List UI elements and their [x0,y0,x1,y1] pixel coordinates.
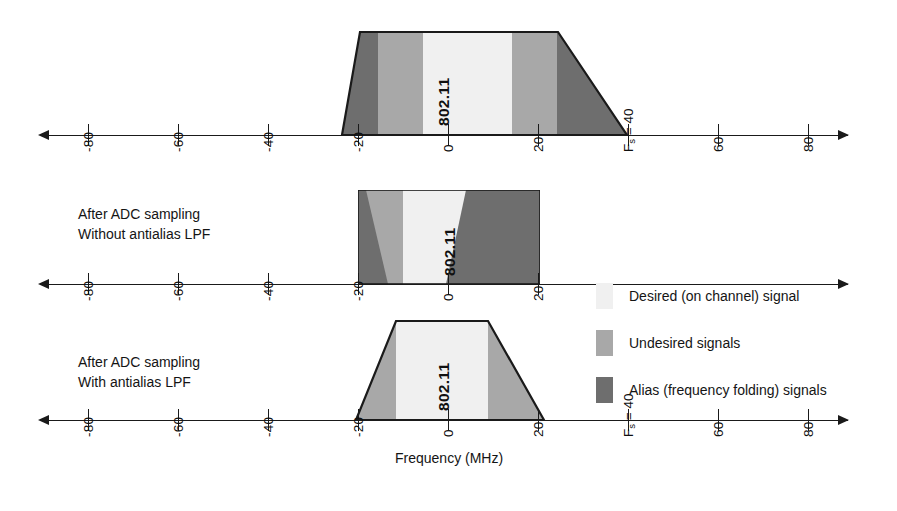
caption-without-lpf-line2: Without antialias LPF [78,224,210,244]
tick-label-mid-0: 0 [442,293,456,301]
tick-label-top--80: -80 [82,132,96,152]
spectrum-without-lpf: 802.11 [358,190,540,284]
spectrum-with-lpf: 802.11 [350,319,550,420]
fs-subscript: s [626,139,637,144]
legend-label-undesired: Undesired signals [629,335,740,351]
tick-label-bot--40: -40 [262,417,276,437]
axis-arrow-left [38,279,49,289]
signal-tag-802-11: 802.11 [436,363,452,411]
fs-subscript: s [626,424,637,429]
axis-arrow-left [38,415,49,425]
axis-arrow-right [838,130,849,140]
band-undesired-right [512,32,557,135]
spectrum-figure: 802.11 -80 -60 -40 -20 0 20 Fs = 40 [0,0,897,511]
legend-swatch-undesired [596,330,613,356]
tick-mid-0 [448,273,449,295]
legend-item-undesired: Undesired signals [596,330,740,356]
legend-swatch-alias [596,377,613,403]
legend-label-desired: Desired (on channel) signal [629,288,799,304]
legend-item-desired: Desired (on channel) signal [596,283,799,309]
tick-label-top--40: -40 [262,132,276,152]
caption-with-lpf-line2: With antialias LPF [78,372,200,392]
x-axis-label: Frequency (MHz) [395,450,503,466]
panel-with-lpf: After ADC sampling With antialias LPF 80… [0,340,897,511]
legend-swatch-desired [596,283,613,309]
tick-label-mid--80: -80 [82,281,96,301]
tick-label-bot-20: 20 [532,422,546,437]
tick-top-0 [448,124,449,146]
signal-tag-802-11: 802.11 [436,78,452,126]
fs-symbol: F [621,429,636,437]
legend-label-alias: Alias (frequency folding) signals [629,382,827,398]
legend-item-alias: Alias (frequency folding) signals [596,377,827,403]
tick-bot-0 [448,409,449,431]
tick-label-bot--60: -60 [172,417,186,437]
tick-label-mid-20: 20 [532,286,546,301]
panel-before-sampling: 802.11 -80 -60 -40 -20 0 20 Fs = 40 [0,0,897,190]
signal-tag-802-11: 802.11 [442,228,458,276]
caption-without-lpf: After ADC sampling Without antialias LPF [78,204,210,245]
tick-label-bot--20: -20 [352,417,366,437]
tick-label-top--60: -60 [172,132,186,152]
band-alias-left [342,32,378,135]
tick-label-bot-0: 0 [442,429,456,437]
tick-label-bot--80: -80 [82,417,96,437]
tick-label-mid--40: -40 [262,281,276,301]
caption-without-lpf-line1: After ADC sampling [78,204,210,224]
tick-label-mid--60: -60 [172,281,186,301]
fs-symbol: F [621,144,636,152]
band-undesired-left [378,32,423,135]
axis-arrow-left [38,130,49,140]
tick-label-bot-60: 60 [712,422,726,437]
tick-label-bot-80: 80 [802,422,816,437]
axis-arrow-right [838,415,849,425]
tick-label-top-0: 0 [442,144,456,152]
fs-label-top: Fs = 40 [622,109,636,152]
caption-with-lpf-line1: After ADC sampling [78,352,200,372]
tick-label-top--20: -20 [352,132,366,152]
tick-label-top-60: 60 [712,137,726,152]
caption-with-lpf: After ADC sampling With antialias LPF [78,352,200,393]
tick-label-top-80: 80 [802,137,816,152]
tick-label-top-20: 20 [532,137,546,152]
spectrum-before-sampling: 802.11 [340,30,630,135]
tick-label-mid--20: -20 [352,281,366,301]
panel-without-lpf: After ADC sampling Without antialias LPF… [0,190,897,340]
axis-arrow-right [838,279,849,289]
fs-value: = 40 [621,109,636,139]
